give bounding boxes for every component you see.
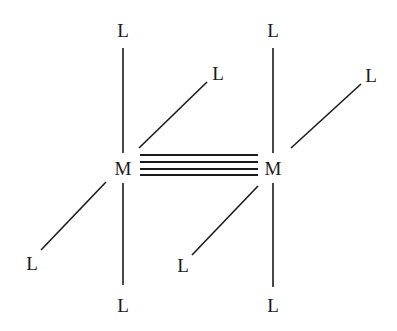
metal-label-1: M (115, 158, 132, 179)
bond-m2-upper-right (291, 84, 361, 148)
ligand-label-m2-upper-right: L (365, 65, 377, 86)
quadruple-bond-diagram: M M L L L L L L L L (0, 0, 397, 331)
bond-m1-lower-left (41, 182, 106, 250)
ligand-label-m2-top: L (267, 20, 279, 41)
ligand-label-m2-lower-left: L (177, 255, 189, 276)
metal-label-2: M (265, 158, 282, 179)
ligand-label-m1-bottom: L (117, 295, 129, 316)
ligand-label-m2-bottom: L (267, 295, 279, 316)
quadruple-bond (140, 155, 258, 175)
ligand-label-m1-upper-right: L (212, 63, 224, 84)
bond-m1-upper-right (139, 82, 207, 148)
ligand-label-m1-lower-left: L (26, 253, 38, 274)
bond-m2-lower-left (192, 186, 258, 255)
ligand-label-m1-top: L (117, 20, 129, 41)
